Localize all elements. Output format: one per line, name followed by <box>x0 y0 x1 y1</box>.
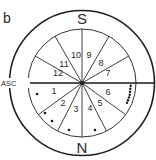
data-point-marker <box>51 120 54 123</box>
data-point-marker <box>129 88 131 90</box>
data-point-marker <box>129 91 131 93</box>
south-label: S <box>77 10 87 27</box>
house-number-label: 6 <box>105 87 110 97</box>
house-number-label: 3 <box>73 104 78 114</box>
data-point-marker <box>44 112 47 115</box>
house-number-label: 12 <box>53 68 63 78</box>
data-point-marker <box>128 96 130 98</box>
house-number-label: 10 <box>71 50 81 60</box>
data-point-marker <box>129 94 131 96</box>
house-number-label: 8 <box>98 58 103 68</box>
data-point-marker <box>36 93 39 96</box>
house-number-label: 5 <box>97 98 102 108</box>
ascendant-label: ASC <box>1 79 17 88</box>
center-hub <box>80 81 84 85</box>
data-point-marker <box>94 129 97 132</box>
house-divider-line <box>82 83 107 131</box>
house-chart-diagram: b S N ASC 123456789101112 <box>0 0 156 160</box>
house-number-label: 4 <box>87 103 92 113</box>
data-point-marker <box>130 85 132 87</box>
panel-label: b <box>3 10 11 26</box>
house-number-label: 9 <box>86 50 91 60</box>
data-point-marker <box>126 102 128 104</box>
data-point-marker <box>68 129 71 132</box>
house-number-label: 2 <box>60 98 65 108</box>
house-number-label: 1 <box>51 86 56 96</box>
house-number-label: 7 <box>105 68 110 78</box>
data-point-marker <box>127 99 129 101</box>
north-label: N <box>77 139 88 156</box>
